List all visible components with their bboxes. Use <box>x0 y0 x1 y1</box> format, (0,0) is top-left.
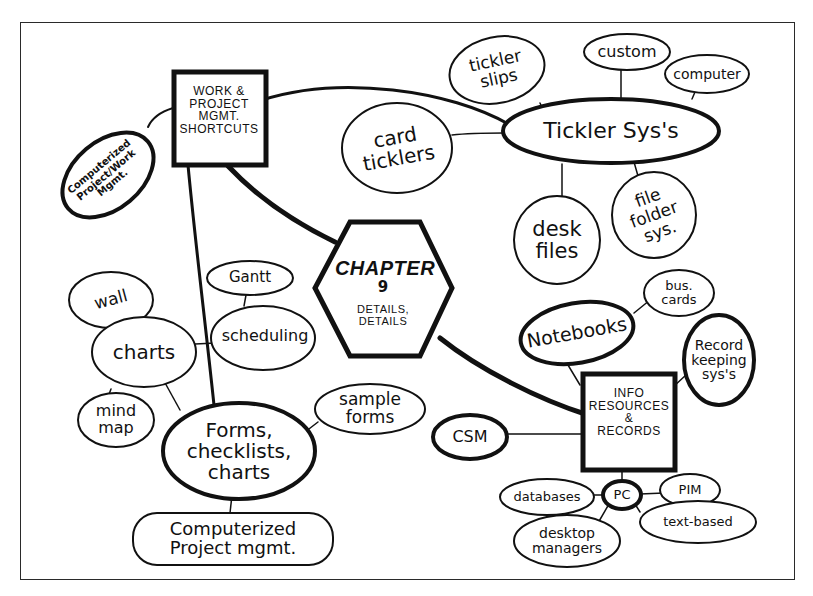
label-chapter-title: CHAPTER <box>335 258 435 279</box>
label-chapter-subtitle: DETAILS, DETAILS <box>357 304 409 327</box>
label-desktop-managers: desktop managers <box>532 526 602 555</box>
edge-chapter-work <box>228 166 335 242</box>
label-work: WORK & PROJECT MGMT. SHORTCUTS <box>180 85 259 135</box>
label-forms: Forms, checklists, charts <box>187 420 292 483</box>
label-computerized-pm: Computerized Project mgmt. <box>170 520 297 558</box>
edge-scheduling-gantt <box>244 295 246 306</box>
label-charts: charts <box>113 342 175 363</box>
label-scheduling: scheduling <box>222 328 309 345</box>
label-chapter-number: 9 <box>378 280 388 296</box>
label-gantt: Gantt <box>229 270 271 286</box>
edge-tickler-card <box>452 133 504 135</box>
label-text-based: text-based <box>663 515 733 529</box>
label-pim: PIM <box>679 483 702 497</box>
label-pc: PC <box>614 488 631 502</box>
label-info: INFO RESOURCES & RECORDS <box>589 387 670 437</box>
label-csm: CSM <box>452 429 487 446</box>
edge-charts-forms <box>164 381 180 410</box>
label-tickler: Tickler Sys's <box>543 119 678 142</box>
label-desk-files: desk files <box>532 218 581 262</box>
edge-work-computerizedpw <box>148 108 173 127</box>
label-custom: custom <box>598 44 657 61</box>
label-computer: computer <box>673 67 741 82</box>
label-mind-map: mind map <box>96 403 136 437</box>
label-bus-cards: bus. cards <box>661 279 696 306</box>
label-sample-forms: sample forms <box>339 391 401 427</box>
label-record-keeping: Record keeping sys's <box>691 338 746 382</box>
label-databases: databases <box>513 490 580 504</box>
